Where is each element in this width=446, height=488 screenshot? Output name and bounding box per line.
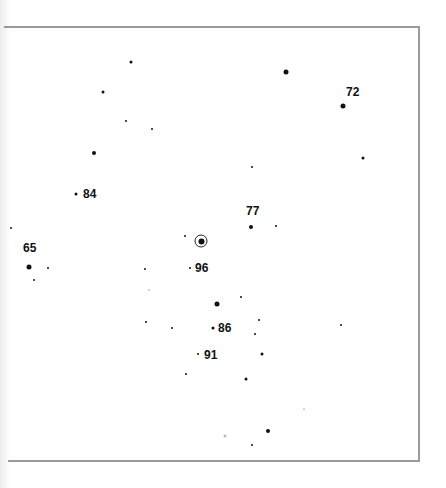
chart-frame-bottom: [8, 460, 420, 462]
star-dot: [258, 319, 260, 321]
star-dot: [130, 61, 133, 64]
star-dot: [125, 120, 127, 122]
star-dot: [266, 429, 270, 433]
star-dot: [340, 324, 342, 326]
star-dot: [215, 302, 220, 307]
comparison-star-dot: [189, 267, 191, 269]
star-dot: [185, 373, 187, 375]
star-dot: [171, 327, 173, 329]
comparison-star-label: 72: [346, 86, 359, 98]
target-star-marker-icon: [195, 235, 208, 248]
star-dot: [92, 151, 96, 155]
comparison-star-dot: [75, 193, 78, 196]
star-dot: [151, 128, 153, 130]
comparison-star-dot: [212, 327, 215, 330]
star-dot: [144, 268, 146, 270]
comparison-star-label: 65: [23, 242, 36, 254]
star-dot: [33, 279, 35, 281]
scan-edge-shadow: [0, 0, 10, 488]
star-dot: [149, 290, 150, 291]
star-dot: [261, 353, 264, 356]
star-dot: [245, 378, 248, 381]
comparison-star-label: 91: [204, 349, 217, 361]
star-dot: [145, 321, 147, 323]
comparison-star-dot: [197, 353, 199, 355]
star-dot: [10, 227, 12, 229]
chart-frame-top: [4, 26, 420, 28]
star-dot: [184, 235, 186, 237]
star-dot: [362, 157, 365, 160]
comparison-star-dot: [249, 225, 253, 229]
target-star-core: [198, 238, 204, 244]
comparison-star-label: 84: [83, 188, 96, 200]
comparison-star-label: 86: [218, 322, 231, 334]
chart-frame-right: [418, 26, 420, 462]
star-dot: [251, 444, 253, 446]
star-dot: [304, 409, 305, 410]
star-dot: [254, 333, 256, 335]
finder-chart: 72847765968691: [0, 0, 446, 488]
star-dot: [47, 267, 49, 269]
star-dot: [275, 225, 277, 227]
comparison-star-label: 77: [246, 205, 259, 217]
star-dot: [284, 70, 289, 75]
comparison-star-label: 96: [195, 262, 208, 274]
star-dot: [240, 296, 242, 298]
star-dot: [251, 166, 253, 168]
comparison-star-dot: [27, 265, 32, 270]
star-dot: [224, 435, 227, 438]
star-dot: [102, 91, 105, 94]
comparison-star-dot: [341, 104, 346, 109]
